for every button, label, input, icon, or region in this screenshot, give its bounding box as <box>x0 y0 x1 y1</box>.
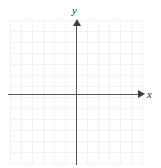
coordinate-plane-figure: x y <box>0 0 161 168</box>
grid-overlay-wash <box>10 20 144 165</box>
y-axis-label: y <box>72 5 77 16</box>
x-axis-arrow-icon <box>138 90 145 98</box>
grid-background <box>10 20 144 165</box>
x-axis-label: x <box>147 89 152 100</box>
y-axis-line <box>76 21 77 165</box>
y-axis-arrow-icon <box>73 19 81 26</box>
